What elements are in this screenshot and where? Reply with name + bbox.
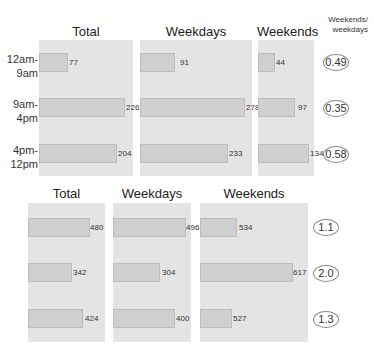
bar-top-total-2 [39, 144, 117, 163]
bar-bottom-weekends-2 [200, 309, 232, 328]
row-label-line: 4pm [0, 111, 38, 125]
ratio-badge: 0.58 [323, 146, 349, 163]
ratio-header-line2: weekdays [314, 25, 368, 35]
row-label-line: 12am- [0, 52, 38, 66]
top-title-total: Total [39, 24, 133, 39]
bar-bottom-weekdays-0 [113, 218, 186, 237]
bar-top-weekdays-0 [140, 53, 175, 72]
value-label: 400 [176, 314, 189, 324]
value-label: 97 [298, 103, 307, 113]
row-label-9am-4pm: 9am- 4pm [0, 97, 38, 125]
value-label: 496 [186, 223, 199, 233]
value-label: 44 [276, 58, 285, 68]
top-title-weekends: Weekends [257, 24, 315, 39]
bar-bottom-total-1 [28, 263, 72, 282]
bar-bottom-weekends-0 [200, 218, 237, 237]
bottom-title-total: Total [28, 186, 105, 201]
value-label: 91 [180, 58, 189, 68]
value-label: 204 [118, 149, 131, 159]
value-label: 134 [310, 149, 323, 159]
bar-top-weekdays-1 [140, 98, 245, 117]
row-label-line: 4pm- [0, 143, 38, 157]
ratio-badge: 0.49 [323, 54, 349, 71]
bar-bottom-weekdays-2 [113, 309, 175, 328]
value-label: 226 [126, 103, 139, 113]
ratio-badge: 1.1 [313, 219, 339, 236]
bottom-title-weekends: Weekends [200, 186, 308, 201]
bar-top-total-1 [39, 98, 125, 117]
bar-bottom-weekends-1 [200, 263, 293, 282]
bar-bottom-weekdays-1 [113, 263, 160, 282]
value-label: 77 [69, 58, 78, 68]
bar-bottom-total-2 [28, 309, 83, 328]
top-title-weekdays: Weekdays [140, 24, 252, 39]
bar-top-weekends-0 [258, 53, 275, 72]
ratio-header: Weekends/ weekdays [314, 15, 368, 35]
bar-top-total-0 [39, 53, 68, 72]
value-label: 304 [162, 268, 175, 278]
row-label-12am-9am: 12am- 9am [0, 52, 38, 80]
value-label: 424 [85, 314, 98, 324]
ratio-badge: 1.3 [313, 311, 339, 328]
ratio-badge: 2.0 [313, 265, 339, 282]
value-label: 480 [90, 223, 103, 233]
ratio-header-line1: Weekends/ [314, 15, 368, 25]
value-label: 233 [229, 149, 242, 159]
ratio-badge: 0.35 [323, 100, 349, 117]
row-label-line: 12pm [0, 157, 38, 171]
bar-top-weekends-2 [258, 144, 309, 163]
value-label: 534 [239, 223, 252, 233]
bar-top-weekdays-2 [140, 144, 228, 163]
row-label-line: 9am- [0, 97, 38, 111]
bar-top-weekends-1 [258, 98, 295, 117]
row-label-line: 9am [0, 66, 38, 80]
bar-bottom-total-0 [28, 218, 90, 237]
value-label: 617 [293, 268, 306, 278]
bottom-title-weekdays: Weekdays [113, 186, 191, 201]
value-label: 342 [73, 268, 86, 278]
value-label: 527 [233, 314, 246, 324]
row-label-4pm-12pm: 4pm- 12pm [0, 143, 38, 171]
